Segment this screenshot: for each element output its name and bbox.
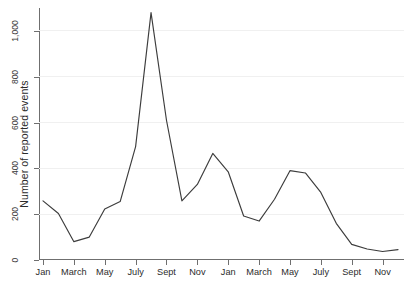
y-tick-mark — [34, 260, 39, 261]
x-tick-mark — [290, 260, 291, 265]
line-chart: Number of reported events 02004006008001… — [0, 0, 409, 288]
x-tick-label: May — [281, 267, 298, 277]
x-tick-label: May — [96, 267, 113, 277]
y-tick-label: 600 — [9, 106, 21, 140]
y-tick-label: 0 — [9, 243, 21, 277]
x-tick-mark — [228, 260, 229, 265]
x-tick-label: Jan — [221, 267, 236, 277]
x-tick-label: March — [61, 267, 87, 277]
x-tick-label: Sept — [342, 267, 361, 277]
x-tick-mark — [136, 260, 137, 265]
x-tick-mark — [197, 260, 198, 265]
x-tick-label: July — [127, 267, 143, 277]
x-tick-mark — [383, 260, 384, 265]
x-tick-mark — [352, 260, 353, 265]
plot-svg — [39, 8, 404, 260]
x-tick-mark — [43, 260, 44, 265]
x-tick-label: Jan — [36, 267, 51, 277]
x-tick-mark — [74, 260, 75, 265]
y-tick-label: 1,000 — [9, 14, 21, 48]
x-tick-label: July — [313, 267, 329, 277]
x-tick-label: Nov — [374, 267, 390, 277]
series-line — [43, 13, 398, 252]
plot-area — [39, 8, 404, 260]
x-tick-mark — [321, 260, 322, 265]
x-tick-label: Sept — [157, 267, 176, 277]
y-tick-label: 200 — [9, 197, 21, 231]
y-tick-label: 400 — [9, 151, 21, 185]
x-tick-label: Nov — [189, 267, 205, 277]
y-tick-label: 800 — [9, 60, 21, 94]
x-tick-mark — [166, 260, 167, 265]
gridlines — [39, 31, 404, 260]
x-tick-mark — [105, 260, 106, 265]
x-tick-label: March — [246, 267, 272, 277]
x-tick-mark — [259, 260, 260, 265]
